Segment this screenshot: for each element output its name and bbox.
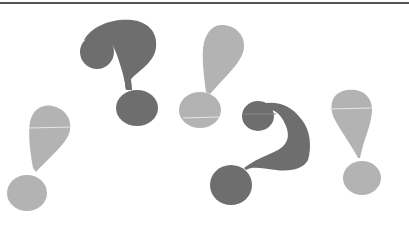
exclamation-mark-icon — [7, 106, 71, 211]
question-mark-icon — [210, 101, 310, 205]
punctuation-illustration — [0, 0, 409, 227]
exclamation-mark-icon — [330, 90, 381, 195]
question-mark-icon — [80, 20, 158, 126]
exclamation-mark-icon — [179, 25, 244, 128]
